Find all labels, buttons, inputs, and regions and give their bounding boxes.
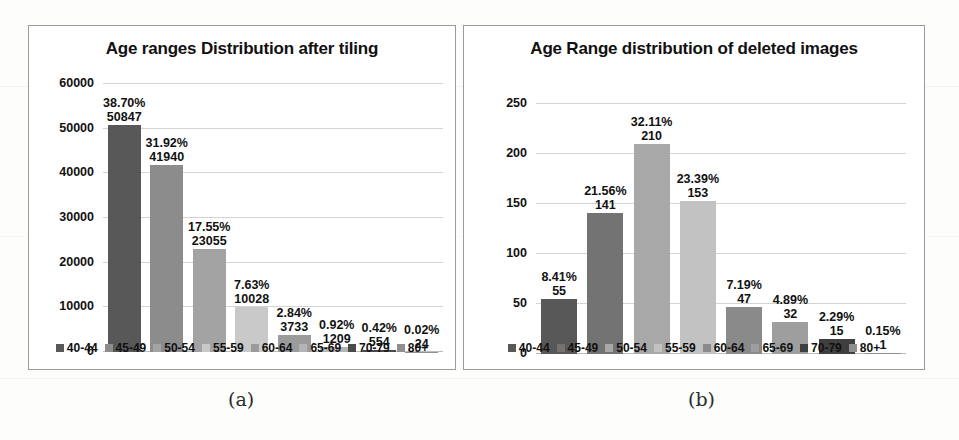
legend-label: 80+ bbox=[860, 341, 880, 355]
legend-item[interactable]: 80+ bbox=[397, 341, 428, 355]
bar-value-label: 7.63%10028 bbox=[234, 278, 269, 307]
bar-value-label: 31.92%41940 bbox=[146, 136, 188, 165]
y-axis-tick-label: 20000 bbox=[59, 255, 94, 269]
legend-swatch-icon bbox=[703, 344, 711, 352]
y-axis-tick-label: 30000 bbox=[59, 210, 94, 224]
bar-percent-text: 7.19% bbox=[726, 278, 761, 292]
bar-count-text: 47 bbox=[726, 292, 761, 306]
bar-value-label: 2.29%15 bbox=[819, 310, 854, 339]
bar[interactable]: 31.92%41940 bbox=[150, 165, 183, 352]
bar[interactable]: 38.70%50847 bbox=[108, 125, 141, 352]
legend-label: 55-59 bbox=[665, 341, 696, 355]
bar-group: 0.02%24 bbox=[401, 84, 444, 352]
legend-swatch-icon bbox=[202, 344, 210, 352]
bar-percent-text: 0.02% bbox=[404, 323, 439, 337]
bar-count-text: 15 bbox=[819, 324, 854, 338]
chart-b-legend: 40-4445-4950-5455-5960-6465-6970-7980+ bbox=[464, 341, 924, 355]
chart-panel-b: Age Range distribution of deleted images… bbox=[463, 25, 925, 370]
bar[interactable]: 21.56%141 bbox=[587, 213, 623, 354]
chart-b-bars: 8.41%5521.56%14132.11%21023.39%1537.19%4… bbox=[536, 104, 906, 354]
legend-swatch-icon bbox=[605, 344, 613, 352]
legend-label: 55-59 bbox=[213, 341, 244, 355]
legend-item[interactable]: 45-49 bbox=[105, 341, 147, 355]
legend-item[interactable]: 40-44 bbox=[508, 341, 550, 355]
bar-group: 7.63%10028 bbox=[231, 84, 274, 352]
legend-label: 50-54 bbox=[616, 341, 647, 355]
legend-swatch-icon bbox=[800, 344, 808, 352]
bar-group: 2.29%15 bbox=[814, 104, 860, 354]
legend-item[interactable]: 80+ bbox=[849, 341, 880, 355]
legend-item[interactable]: 55-59 bbox=[202, 341, 244, 355]
bar-percent-text: 31.92% bbox=[146, 136, 188, 150]
bar-count-text: 3733 bbox=[277, 320, 312, 334]
legend-label: 65-69 bbox=[310, 341, 341, 355]
legend-label: 70-79 bbox=[359, 341, 390, 355]
legend-label: 60-64 bbox=[714, 341, 745, 355]
bar-group: 17.55%23055 bbox=[188, 84, 231, 352]
bar-group: 31.92%41940 bbox=[146, 84, 189, 352]
chart-b-title: Age Range distribution of deleted images bbox=[492, 38, 897, 59]
bar-group: 2.84%3733 bbox=[273, 84, 316, 352]
bar-percent-text: 21.56% bbox=[584, 184, 626, 198]
bar-count-text: 210 bbox=[631, 129, 673, 143]
bar-count-text: 10028 bbox=[234, 292, 269, 306]
legend-label: 45-49 bbox=[116, 341, 147, 355]
legend-item[interactable]: 40-44 bbox=[56, 341, 98, 355]
legend-swatch-icon bbox=[299, 344, 307, 352]
bar-value-label: 32.11%210 bbox=[631, 115, 673, 144]
legend-label: 45-49 bbox=[568, 341, 599, 355]
legend-swatch-icon bbox=[654, 344, 662, 352]
legend-label: 70-79 bbox=[811, 341, 842, 355]
bar[interactable]: 17.55%23055 bbox=[193, 249, 226, 352]
legend-item[interactable]: 70-79 bbox=[800, 341, 842, 355]
y-axis-tick-label: 10000 bbox=[59, 299, 94, 313]
bar[interactable]: 32.11%210 bbox=[634, 144, 670, 354]
bar-count-text: 32 bbox=[773, 307, 808, 321]
bar-value-label: 7.19%47 bbox=[726, 278, 761, 307]
bar-percent-text: 7.63% bbox=[234, 278, 269, 292]
legend-item[interactable]: 50-54 bbox=[153, 341, 195, 355]
y-axis-tick-label: 200 bbox=[506, 146, 527, 160]
legend-item[interactable]: 60-64 bbox=[703, 341, 745, 355]
bar-percent-text: 8.41% bbox=[541, 270, 576, 284]
bar[interactable]: 23.39%153 bbox=[680, 201, 716, 354]
legend-label: 50-54 bbox=[164, 341, 195, 355]
bar-value-label: 38.70%50847 bbox=[103, 96, 145, 125]
chart-a-legend: 40-4445-4950-5455-5960-6465-6970-7980+ bbox=[29, 341, 455, 355]
legend-item[interactable]: 60-64 bbox=[251, 341, 293, 355]
bar-percent-text: 0.15% bbox=[865, 324, 900, 338]
y-axis-tick-label: 100 bbox=[506, 246, 527, 260]
bar-percent-text: 17.55% bbox=[188, 220, 230, 234]
legend-label: 65-69 bbox=[762, 341, 793, 355]
bar-group: 23.39%153 bbox=[675, 104, 721, 354]
y-axis-tick-label: 150 bbox=[506, 196, 527, 210]
legend-item[interactable]: 70-79 bbox=[348, 341, 390, 355]
bar-percent-text: 2.29% bbox=[819, 310, 854, 324]
y-axis-tick-label: 40000 bbox=[59, 165, 94, 179]
y-axis-tick-label: 60000 bbox=[59, 76, 94, 90]
bar-percent-text: 23.39% bbox=[677, 172, 719, 186]
legend-swatch-icon bbox=[153, 344, 161, 352]
legend-item[interactable]: 65-69 bbox=[751, 341, 793, 355]
scan-artifact bbox=[0, 378, 959, 379]
bar-count-text: 141 bbox=[584, 198, 626, 212]
bar-percent-text: 38.70% bbox=[103, 96, 145, 110]
chart-a-title: Age ranges Distribution after tiling bbox=[55, 38, 430, 59]
legend-item[interactable]: 55-59 bbox=[654, 341, 696, 355]
legend-item[interactable]: 65-69 bbox=[299, 341, 341, 355]
y-axis-tick-label: 250 bbox=[506, 96, 527, 110]
bar-value-label: 17.55%23055 bbox=[188, 220, 230, 249]
bar-count-text: 55 bbox=[541, 284, 576, 298]
bar-value-label: 23.39%153 bbox=[677, 172, 719, 201]
subfigure-caption-b: (b) bbox=[688, 388, 715, 410]
bar-percent-text: 2.84% bbox=[277, 306, 312, 320]
legend-swatch-icon bbox=[56, 344, 64, 352]
figure-root: Age ranges Distribution after tiling 010… bbox=[0, 0, 959, 440]
bar-count-text: 153 bbox=[677, 186, 719, 200]
legend-item[interactable]: 45-49 bbox=[557, 341, 599, 355]
legend-item[interactable]: 50-54 bbox=[605, 341, 647, 355]
bar-group: 7.19%47 bbox=[721, 104, 767, 354]
bar-value-label: 4.89%32 bbox=[773, 293, 808, 322]
bar-percent-text: 32.11% bbox=[631, 115, 673, 129]
bar-percent-text: 4.89% bbox=[773, 293, 808, 307]
